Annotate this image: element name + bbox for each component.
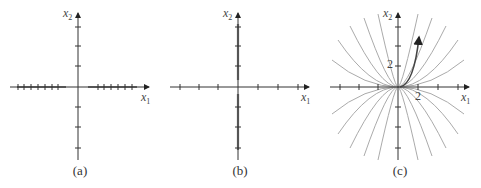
caption-c: (c) xyxy=(320,163,480,179)
panel-c: x2 x1 2 2 (c) xyxy=(320,0,480,188)
x-axis-label: x1 xyxy=(301,90,310,106)
y-tick-label-2: 2 xyxy=(387,57,393,72)
caption-b: (b) xyxy=(160,163,320,179)
highlighted-trajectory xyxy=(400,37,419,87)
phase-plot-a xyxy=(0,0,160,188)
y-axis-label: x2 xyxy=(223,6,232,22)
y-axis-label: x2 xyxy=(63,6,72,22)
panel-b: x2 x1 (b) xyxy=(160,0,320,188)
y-axis-label: x2 xyxy=(383,6,392,22)
x-axis-label: x1 xyxy=(461,90,470,106)
x-axis-label: x1 xyxy=(141,90,150,106)
x-tick-label-2: 2 xyxy=(415,89,421,104)
phase-plot-c xyxy=(320,0,481,188)
panel-a: x2 x1 (a) xyxy=(0,0,160,188)
caption-a: (a) xyxy=(0,163,160,179)
phase-plot-b xyxy=(160,0,320,188)
